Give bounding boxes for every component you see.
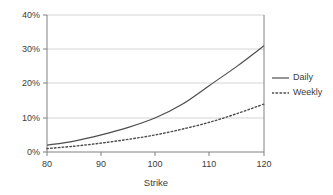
legend-label-weekly: Weekly [293,88,322,97]
x-tick-label-90: 90 [87,160,115,169]
series-line-weekly [47,104,264,149]
x-tick-label-120: 120 [250,160,278,169]
y-tick-label-0: 0% [8,148,40,157]
legend-swatch-solid-icon [272,74,289,82]
legend-item-weekly: Weekly [272,85,333,100]
x-tick-label-110: 110 [195,160,223,169]
legend: Daily Weekly [272,70,333,100]
x-axis-ticks [47,152,264,156]
y-tick-label-10: 10% [8,114,40,123]
series-line-daily [47,46,264,145]
x-tick-label-100: 100 [141,160,169,169]
legend-swatch-dotted-icon [272,89,289,97]
y-tick-label-40: 40% [8,11,40,20]
data-series [47,46,264,149]
y-tick-label-20: 20% [8,79,40,88]
gridlines [47,15,264,118]
y-axis-ticks [43,15,47,152]
legend-item-daily: Daily [272,70,333,85]
x-tick-label-80: 80 [33,160,61,169]
legend-label-daily: Daily [293,73,313,82]
y-tick-label-30: 30% [8,45,40,54]
x-axis-title: Strike [111,178,201,188]
line-chart: 40% 30% 20% 10% 0% 80 90 100 110 120 Str… [0,0,333,195]
